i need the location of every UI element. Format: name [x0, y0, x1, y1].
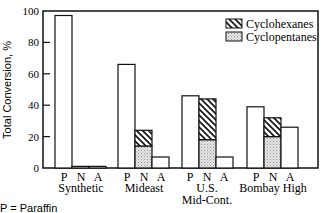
bar-bombay-n-cyclopentanes: [264, 137, 281, 168]
category-us-line2: Mid-Cont.: [182, 193, 232, 207]
group-us-mid-cont: [182, 96, 233, 168]
tick-40: 40: [28, 99, 40, 111]
bar-us-n-cyclohexanes: [199, 99, 216, 140]
bar-us-a: [216, 157, 233, 168]
bar-us-p: [182, 96, 199, 168]
legend: Cyclohexanes Cyclopentanes: [226, 17, 317, 44]
paraffin-note: P = Paraffin: [0, 202, 57, 213]
bar-bombay-p: [247, 107, 264, 168]
y-axis-ticks: [43, 42, 50, 136]
category-synthetic: Synthetic: [58, 181, 103, 195]
tick-0: 0: [34, 162, 40, 174]
bar-synthetic-p: [55, 16, 72, 169]
bar-mideast-n-cyclohexanes: [135, 130, 152, 146]
svg-text:P: P: [187, 170, 194, 184]
category-labels: Synthetic Mideast U.S. Mid-Cont. Bombay …: [58, 181, 307, 207]
tick-20: 20: [28, 131, 40, 143]
group-synthetic: [55, 16, 106, 169]
legend-cyclohexanes-label: Cyclohexanes: [246, 17, 314, 31]
legend-cyclopentanes-swatch: [226, 32, 242, 41]
bar-mideast-p: [118, 64, 135, 168]
bar-mideast-n-cyclopentanes: [135, 146, 152, 168]
legend-cyclohexanes-swatch: [226, 19, 242, 28]
category-bombay-high: Bombay High: [239, 181, 307, 195]
group-bombay-high: [247, 107, 298, 168]
tick-100: 100: [23, 5, 40, 17]
bar-bombay-n-cyclohexanes: [264, 118, 281, 137]
legend-cyclopentanes-label: Cyclopentanes: [246, 30, 317, 44]
svg-text:A: A: [220, 170, 229, 184]
tick-60: 60: [28, 68, 40, 80]
y-axis-tick-labels: 0 20 40 60 80 100: [23, 5, 40, 174]
bar-us-n-cyclopentanes: [199, 140, 216, 168]
conversion-chart: Total Conversion, % 0 20 40 60 80 100: [0, 0, 322, 213]
bar-mideast-a: [152, 157, 169, 168]
bar-bombay-a: [281, 127, 298, 168]
category-mideast: Mideast: [125, 181, 164, 195]
tick-80: 80: [28, 36, 40, 48]
y-axis-label: Total Conversion, %: [1, 41, 13, 139]
bar-synthetic-a: [89, 166, 106, 168]
bar-synthetic-n: [72, 166, 89, 168]
group-mideast: [118, 64, 169, 168]
